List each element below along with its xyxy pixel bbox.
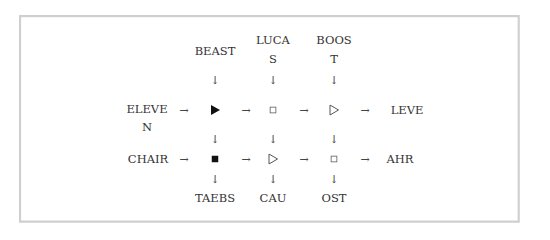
arrow-down-icon: ↓ — [268, 74, 277, 87]
label-eleven-line1: ELEVE — [126, 102, 167, 116]
label-lucas-line1: LUCA — [256, 33, 290, 47]
hollow-square-icon — [331, 156, 338, 163]
arrow-right-icon: → — [179, 104, 188, 117]
arrow-right-icon: → — [360, 104, 369, 117]
arrow-down-icon: ↓ — [268, 133, 277, 146]
arrow-right-icon: → — [241, 153, 250, 166]
arrow-down-icon: ↓ — [210, 74, 219, 87]
label-chair: CHAIR — [128, 152, 168, 166]
arrow-down-icon: ↓ — [329, 133, 338, 146]
label-boost-line1: BOOS — [316, 33, 351, 47]
arrow-right-icon: → — [299, 104, 308, 117]
label-ahr: AHR — [387, 152, 414, 166]
hollow-square-icon — [270, 107, 277, 114]
arrow-down-icon: ↓ — [210, 173, 219, 186]
arrow-right-icon: → — [179, 153, 188, 166]
label-taebs: TAEBS — [195, 191, 235, 205]
hollow-triangle-icon — [268, 154, 278, 165]
arrow-down-icon: ↓ — [329, 74, 338, 87]
label-leve: LEVE — [391, 103, 424, 117]
arrow-right-icon: → — [241, 104, 250, 117]
label-cau: CAU — [260, 191, 287, 205]
label-eleven-line2: N — [142, 120, 152, 134]
label-ost: OST — [322, 191, 347, 205]
filled-square-icon — [212, 156, 219, 163]
label-lucas-line2: S — [269, 52, 277, 66]
arrow-down-icon: ↓ — [329, 173, 338, 186]
arrow-right-icon: → — [299, 153, 308, 166]
hollow-triangle-icon — [329, 105, 339, 116]
label-beast: BEAST — [195, 44, 236, 58]
label-boost-line2: T — [330, 52, 338, 66]
arrow-right-icon: → — [360, 153, 369, 166]
filled-triangle-icon — [210, 105, 220, 115]
arrow-down-icon: ↓ — [268, 173, 277, 186]
arrow-down-icon: ↓ — [210, 133, 219, 146]
